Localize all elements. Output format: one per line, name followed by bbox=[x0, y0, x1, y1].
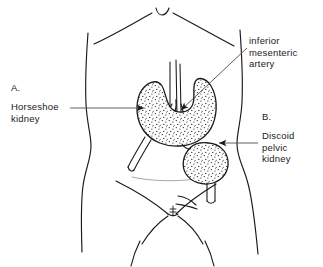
label-horseshoe-kidney: Horseshoe kidney bbox=[11, 101, 59, 124]
pelvic-brim-right bbox=[176, 184, 216, 214]
left-ureter-tube-2 bbox=[128, 137, 145, 167]
thigh-left-outline bbox=[131, 241, 140, 266]
label-panel-a-letter: A. bbox=[11, 82, 20, 93]
label-panel-b-letter: B. bbox=[262, 111, 271, 122]
left-ureter-tube bbox=[134, 140, 151, 170]
groin-crease-right bbox=[178, 216, 203, 244]
label-discoid-pelvic-kidney: Discoid pelvic kidney bbox=[262, 130, 295, 165]
thigh-right-outline bbox=[205, 241, 214, 266]
anatomy-figure: inferior mesenteric artery A. Horseshoe … bbox=[0, 0, 323, 267]
left-ureter-tip bbox=[128, 167, 134, 171]
soft-tissue-line bbox=[132, 177, 196, 181]
costal-margin-right bbox=[173, 13, 234, 46]
groin-crease-left bbox=[142, 216, 168, 244]
right-ureter-tip bbox=[207, 201, 215, 203]
xiphoid-notch bbox=[156, 8, 169, 15]
label-inferior-mesenteric-artery: inferior mesenteric artery bbox=[249, 35, 297, 70]
pelvic-brim-left bbox=[116, 181, 168, 214]
costal-margin-left bbox=[94, 13, 152, 44]
torso-left-contour bbox=[81, 33, 91, 252]
